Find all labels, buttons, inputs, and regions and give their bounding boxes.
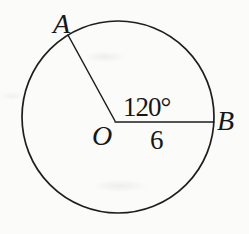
point-b-label: B [217,105,234,136]
radius-length-label: 6 [150,125,163,155]
circle-outline [22,21,214,213]
center-o-label: O [92,120,112,151]
point-a-label: A [51,8,71,39]
geometry-diagram: A O B 120° 6 [0,0,249,234]
angle-measure-label: 120° [123,92,171,122]
radius-oa-line [68,35,115,121]
circle-figure: A O B 120° 6 [0,0,249,234]
